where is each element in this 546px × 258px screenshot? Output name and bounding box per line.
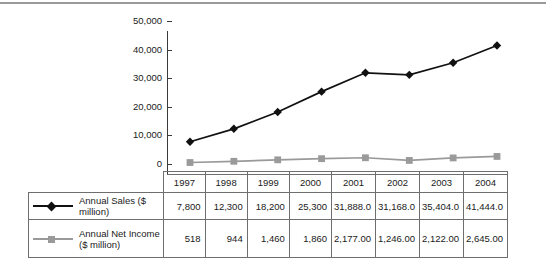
- table-cell-value: 2,177.00: [332, 220, 376, 258]
- chart-figure: 010,00020,00030,00040,00050,000 1997 199…: [0, 0, 546, 258]
- table-cell-value: 1,860: [289, 220, 331, 258]
- column-header-year: 2000: [289, 172, 331, 193]
- legend-cell-net-income: Annual Net Income ($ million): [29, 220, 164, 258]
- table-row: Annual Sales ($ million) 7,800 12,300 18…: [29, 193, 508, 220]
- table-body: Annual Sales ($ million) 7,800 12,300 18…: [29, 193, 508, 258]
- series-plot: [0, 10, 546, 180]
- table-cell-value: 31,168.0: [376, 193, 420, 220]
- data-point-square-marker: [362, 154, 369, 161]
- data-point-diamond-marker: [274, 108, 282, 116]
- table-cell-value: 518: [164, 220, 205, 258]
- data-point-square-marker: [450, 155, 457, 162]
- series-annual-net-income: [187, 153, 501, 166]
- diamond-marker-icon: [33, 200, 73, 212]
- table-cell-value: 1,246.00: [376, 220, 420, 258]
- column-header-year: 1999: [247, 172, 289, 193]
- table-header-row: 1997 1998 1999 2000 2001 2002 2003 2004: [29, 172, 508, 193]
- data-point-diamond-marker: [449, 59, 457, 67]
- data-point-square-marker: [230, 158, 237, 165]
- data-point-square-marker: [187, 159, 194, 166]
- table-corner-cell: [29, 172, 164, 193]
- legend-cell-sales: Annual Sales ($ million): [29, 193, 164, 220]
- plot-area: 010,00020,00030,00040,00050,000: [0, 10, 546, 170]
- legend-label-sales: Annual Sales ($ million): [79, 195, 160, 217]
- top-divider-rule: [0, 2, 546, 4]
- data-point-square-marker: [406, 157, 413, 164]
- series-annual-sales: [186, 41, 501, 146]
- table-cell-value: 1,460: [247, 220, 289, 258]
- table-cell-value: 18,200: [247, 193, 289, 220]
- data-point-square-marker: [274, 156, 281, 163]
- table-cell-value: 41,444.0: [463, 193, 507, 220]
- legend-label-net-income: Annual Net Income ($ million): [79, 228, 160, 250]
- data-point-square-marker: [494, 153, 501, 160]
- column-header-year: 1998: [205, 172, 247, 193]
- table-cell-value: 2,645.00: [463, 220, 507, 258]
- data-point-diamond-marker: [493, 41, 501, 49]
- table-cell-value: 12,300: [205, 193, 247, 220]
- table-header: 1997 1998 1999 2000 2001 2002 2003 2004: [29, 172, 508, 193]
- table-cell-value: 2,122.00: [420, 220, 464, 258]
- table-cell-value: 35,404.0: [420, 193, 464, 220]
- data-point-diamond-marker: [186, 137, 194, 145]
- data-point-diamond-marker: [361, 69, 369, 77]
- legend-label-net-income-line2: ($ million): [79, 239, 120, 250]
- data-point-diamond-marker: [317, 87, 325, 95]
- table-cell-value: 7,800: [164, 193, 205, 220]
- table-row: Annual Net Income ($ million) 518 944 1,…: [29, 220, 508, 258]
- legend-label-net-income-line1: Annual Net Income: [79, 228, 160, 239]
- column-header-year: 2003: [420, 172, 464, 193]
- column-header-year: 1997: [164, 172, 205, 193]
- data-point-square-marker: [318, 155, 325, 162]
- square-marker-icon: [33, 233, 73, 245]
- data-point-diamond-marker: [405, 71, 413, 79]
- table-cell-value: 25,300: [289, 193, 331, 220]
- table-cell-value: 31,888.0: [332, 193, 376, 220]
- data-table: 1997 1998 1999 2000 2001 2002 2003 2004: [28, 171, 508, 258]
- table-cell-value: 944: [205, 220, 247, 258]
- data-point-diamond-marker: [230, 125, 238, 133]
- column-header-year: 2002: [376, 172, 420, 193]
- column-header-year: 2004: [463, 172, 507, 193]
- column-header-year: 2001: [332, 172, 376, 193]
